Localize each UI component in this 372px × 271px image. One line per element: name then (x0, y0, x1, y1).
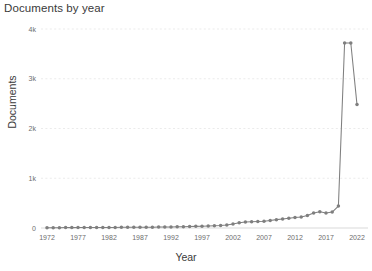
data-point[interactable] (64, 226, 68, 230)
data-point[interactable] (151, 225, 155, 229)
data-point[interactable] (107, 226, 111, 230)
data-point[interactable] (213, 224, 217, 228)
data-point[interactable] (262, 219, 266, 223)
x-axis-tick-labels: 1972197719821987199219972002200720122017… (39, 234, 365, 241)
data-point[interactable] (256, 220, 260, 224)
data-point[interactable] (194, 225, 198, 229)
data-point[interactable] (318, 210, 322, 214)
data-point[interactable] (132, 226, 136, 230)
data-point[interactable] (200, 224, 204, 228)
data-point[interactable] (70, 226, 74, 230)
data-series-documents[interactable] (47, 43, 357, 228)
data-point[interactable] (182, 225, 186, 229)
data-point[interactable] (126, 226, 130, 230)
x-tick-label: 2022 (349, 234, 365, 241)
data-point[interactable] (101, 226, 105, 230)
data-point[interactable] (45, 226, 49, 230)
y-tick-label: 2k (29, 125, 37, 132)
data-point[interactable] (330, 210, 334, 214)
data-point[interactable] (355, 103, 359, 107)
data-point[interactable] (163, 225, 167, 229)
x-tick-label: 1997 (194, 234, 210, 241)
x-tick-label: 1987 (132, 234, 148, 241)
y-tick-label: 1k (29, 175, 37, 182)
data-point[interactable] (337, 204, 341, 208)
y-axis-tick-labels: 01k2k3k4k (29, 26, 37, 232)
data-point[interactable] (244, 220, 248, 224)
data-point[interactable] (312, 211, 316, 215)
data-point[interactable] (113, 226, 117, 230)
data-point[interactable] (275, 218, 279, 222)
data-point[interactable] (306, 214, 310, 218)
chart-container: Documents by year Documents Year 01k2k3k… (0, 0, 372, 271)
data-point[interactable] (287, 217, 291, 221)
data-point[interactable] (299, 215, 303, 219)
data-point[interactable] (231, 222, 235, 226)
data-point[interactable] (95, 226, 99, 230)
x-tick-label: 2002 (225, 234, 241, 241)
data-point[interactable] (206, 224, 210, 228)
data-point[interactable] (58, 226, 62, 230)
data-point[interactable] (138, 226, 142, 230)
x-tick-label: 1972 (39, 234, 55, 241)
data-point-markers[interactable] (45, 41, 359, 229)
data-point[interactable] (120, 226, 124, 230)
gridlines (41, 29, 368, 178)
x-tick-label: 2017 (318, 234, 334, 241)
x-tick-label: 1977 (70, 234, 86, 241)
data-point[interactable] (219, 224, 223, 228)
x-tick-label: 1992 (163, 234, 179, 241)
data-point[interactable] (51, 226, 55, 230)
data-point[interactable] (225, 223, 229, 227)
x-tick-label: 2007 (256, 234, 272, 241)
y-tick-label: 0 (32, 225, 36, 232)
data-point[interactable] (324, 211, 328, 215)
data-point[interactable] (281, 217, 285, 221)
line-chart-plot: 01k2k3k4k 197219771982198719921997200220… (0, 0, 372, 271)
y-tick-label: 4k (29, 26, 37, 33)
data-point[interactable] (82, 226, 86, 230)
data-point[interactable] (157, 225, 161, 229)
data-point[interactable] (268, 219, 272, 223)
data-point[interactable] (349, 41, 353, 45)
data-point[interactable] (89, 226, 93, 230)
data-point[interactable] (188, 225, 192, 229)
data-point[interactable] (237, 221, 241, 225)
data-point[interactable] (343, 41, 347, 45)
x-tick-label: 1982 (101, 234, 117, 241)
data-point[interactable] (293, 216, 297, 220)
y-tick-label: 3k (29, 75, 37, 82)
data-point[interactable] (76, 226, 80, 230)
data-point[interactable] (169, 225, 173, 229)
data-point[interactable] (175, 225, 179, 229)
data-point[interactable] (250, 220, 254, 224)
data-point[interactable] (144, 225, 148, 229)
series-line-documents[interactable] (47, 43, 357, 228)
x-tick-label: 2012 (287, 234, 303, 241)
